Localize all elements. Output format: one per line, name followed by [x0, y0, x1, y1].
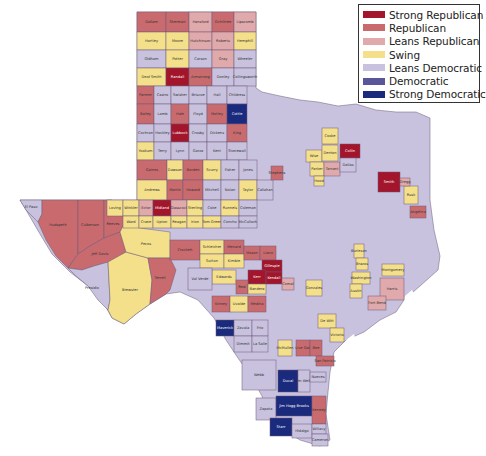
county-label: Hall: [214, 93, 221, 97]
county-scurry: Scurry: [203, 160, 221, 180]
county-label: Cottle: [232, 112, 244, 116]
legend-item-democratic: Democratic: [363, 74, 475, 87]
county-llano: Llano: [260, 246, 276, 260]
county-label: Nueces: [311, 375, 324, 379]
swatch-leans-republican: [363, 38, 385, 45]
county-angelina: Angelina: [410, 206, 426, 218]
county-label: Edwards: [216, 275, 231, 279]
county-label: Cameron: [312, 438, 328, 442]
county-label: Deaf Smith: [141, 75, 161, 79]
swatch-strong-democratic: [363, 91, 385, 98]
county-hartley: Hartley: [137, 32, 166, 50]
county-bee: Bee: [310, 340, 322, 356]
county-dimmit: Dimmit: [234, 336, 252, 352]
county-ochiltree: Ochiltree: [212, 12, 234, 32]
county-brazos: Brazos: [356, 258, 368, 270]
county-reagan: Reagan: [171, 216, 187, 228]
county-mitchell: Mitchell: [203, 180, 221, 200]
map-legend: Strong Republican Republican Leans Repub…: [358, 4, 480, 103]
label-terrell: Terrell: [154, 276, 166, 280]
county-label: Dawson: [168, 168, 182, 172]
county-label: Medina: [250, 302, 263, 306]
county-label: Hemphill: [237, 39, 253, 43]
county-childress: Childress: [227, 86, 247, 104]
county-label: Jim Wells: [295, 379, 312, 383]
county-label: Hartley: [145, 39, 159, 43]
county-crockett: Crockett: [170, 240, 200, 260]
county-label: Denton: [323, 151, 336, 155]
county-hemphill: Hemphill: [234, 32, 256, 50]
label-jeff-davis: Jeff Davis: [91, 252, 109, 256]
county-upton: Upton: [153, 216, 171, 228]
county-lubbock: Lubbock: [171, 124, 189, 142]
county-label: McMullen: [277, 346, 294, 350]
county-label: Hidalgo: [295, 429, 309, 433]
county-maverick: Maverick: [216, 320, 234, 336]
legend-item-republican: Republican: [363, 21, 475, 34]
county-glasscock: Glasscock: [170, 200, 189, 216]
county-label: Collingsworth: [233, 75, 257, 79]
county-mason: Mason: [244, 246, 260, 260]
county-austin: Austin: [350, 284, 362, 298]
county-comal: Comal: [282, 278, 294, 290]
county-nueces: Nueces: [310, 372, 326, 382]
county-label: Jones: [242, 168, 253, 172]
legend-item-leans-republican: Leans Republican: [363, 35, 475, 48]
county-cottle: Cottle: [227, 104, 247, 124]
county-coleman: Coleman: [239, 200, 257, 216]
county-andrews: Andrews: [137, 180, 167, 200]
legend-item-leans-democratic: Leans Democratic: [363, 61, 475, 74]
county-label: Motley: [211, 112, 224, 116]
county-label: Fort Bend: [368, 301, 385, 305]
county-label: Kerr: [253, 275, 261, 279]
county-label: Callahan: [257, 188, 273, 192]
county-label: Live Oak: [295, 346, 312, 350]
county-rusk: Rusk: [404, 186, 418, 204]
county-sherman: Sherman: [166, 12, 189, 32]
county-label: Stephens: [269, 171, 286, 175]
legend-label: Swing: [389, 49, 420, 61]
county-label: Nolan: [225, 188, 235, 192]
county-borden: Borden: [183, 160, 203, 180]
county-label: Carson: [194, 57, 207, 61]
county-parker: Parker: [310, 162, 324, 176]
county-potter: Potter: [166, 50, 189, 68]
county-label: Parker: [311, 167, 323, 171]
county-floyd: Floyd: [189, 104, 207, 124]
county-label: Winkler: [124, 206, 138, 210]
county-label: Coke: [208, 206, 218, 210]
county-label: Montgomery: [382, 268, 406, 272]
county-label: Val Verde: [192, 277, 210, 281]
county-label: Victoria: [330, 333, 344, 337]
county-label: Mitchell: [205, 188, 219, 192]
county-wise: Wise: [306, 150, 322, 162]
county-label: Lynn: [176, 149, 184, 153]
county-kent: Kent: [207, 142, 227, 160]
county-label: Irion: [191, 220, 199, 224]
county-frio: Frio: [252, 320, 268, 336]
county-label: Webb: [254, 373, 265, 377]
county-label: Hale: [176, 112, 185, 116]
county-fort-bend: Fort Bend: [368, 296, 386, 310]
county-lipscomb: Lipscomb: [234, 12, 256, 32]
county-label: Cochran: [138, 131, 153, 135]
label-brewster: Brewster: [122, 288, 139, 292]
county-label: Potter: [172, 57, 183, 61]
label-el-paso: El Paso: [25, 205, 38, 209]
county-dawson: Dawson: [167, 160, 183, 180]
county-crosby: Crosby: [189, 124, 207, 142]
county-bandera: Bandera: [248, 284, 266, 294]
county-label: Gillespie: [264, 264, 280, 268]
county-taylor: Taylor: [239, 180, 257, 200]
county-label: Concho: [223, 220, 236, 224]
county-label: Crockett: [177, 248, 193, 252]
county-label: Midland: [155, 206, 169, 210]
legend-label: Republican: [389, 22, 446, 34]
county-label: Donley: [217, 75, 230, 79]
county-label: Lubbock: [172, 131, 188, 135]
county-label: Burleson: [351, 249, 367, 253]
county-lamb: Lamb: [154, 104, 171, 124]
county-real: Real: [236, 280, 248, 294]
county-label: Austin: [350, 289, 361, 293]
county-mcculloch: McCulloch: [239, 216, 257, 228]
